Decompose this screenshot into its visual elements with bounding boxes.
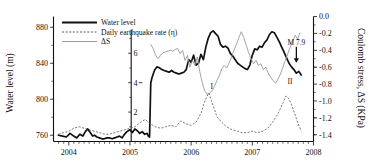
y-axis-right-tick-label: -1.0 [319, 97, 332, 106]
y-axis-right-tick-label: -0.4 [319, 46, 332, 55]
eq-rate-axis-tick-label: 6 [133, 49, 137, 58]
legend-label-2: ΔS [101, 37, 110, 46]
legend-label-0: Water level [101, 18, 136, 27]
annotation-m79-label: M 7.9 [288, 38, 306, 47]
figure-container: Water level (m) Coulomb stress, ΔS (KPa)… [0, 0, 371, 166]
legend-group: Water levelDaily earthquake rate (η)ΔS [62, 18, 178, 46]
y-axis-right-tick-label: -1.2 [319, 114, 332, 123]
series-water-level [58, 31, 301, 139]
y-axis-right-tick-label: 0.0 [319, 12, 329, 21]
annotation-m79-arrow-head [294, 58, 299, 62]
series-delta-s [151, 32, 300, 94]
y-axis-left-tick-label: 800 [36, 95, 48, 104]
y-axis-left-tick-label: 840 [36, 59, 48, 68]
y-axis-right-tick-label: -1.4 [319, 131, 332, 140]
y-axis-right-tick-label: -0.2 [319, 29, 332, 38]
coulomb-stress-water-level-chart: Water level (m) Coulomb stress, ΔS (KPa)… [0, 0, 371, 166]
series-daily-earthquake-rate [58, 93, 301, 134]
legend-label-1: Daily earthquake rate (η) [101, 28, 178, 37]
y-axis-label-left: Water level (m) [5, 53, 16, 112]
data-series-group [58, 31, 301, 139]
annotation-peak-ii-label: II [287, 77, 292, 86]
x-axis-tick-label: 2008 [306, 148, 322, 157]
x-axis-tick-label: 2007 [244, 148, 260, 157]
x-axis-tick-label: 2006 [183, 148, 199, 157]
eq-rate-axis-tick-label: 2 [133, 108, 137, 117]
y-axis-left-tick-label: 880 [36, 23, 48, 32]
x-axis-tick-label: 2005 [122, 148, 138, 157]
x-axis-tick-label: 2004 [61, 148, 77, 157]
y-axis-label-right: Coulomb stress, ΔS (KPa) [355, 28, 366, 128]
eq-rate-axis-tick-label: 4 [133, 79, 137, 88]
y-axis-left-tick-label: 760 [36, 131, 48, 140]
y-axis-right-tick-label: -0.8 [319, 80, 332, 89]
y-axis-right-tick-label: -0.6 [319, 63, 332, 72]
